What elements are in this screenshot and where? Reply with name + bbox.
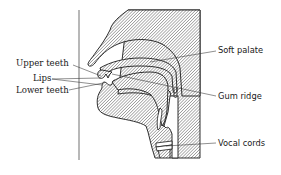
label-vocal-cords: Vocal cords [218,138,265,148]
label-soft-palate: Soft palate [218,45,263,55]
upper-lip-teeth [98,70,112,78]
label-lower-teeth: Lower teeth [16,85,69,95]
leader-lower-teeth [69,83,103,90]
label-upper-teeth: Upper teeth [16,58,69,68]
label-lips: Lips [33,73,51,83]
leader-upper-teeth [73,65,101,76]
label-gum-ridge: Gum ridge [218,91,262,101]
vocal-tract-diagram: Upper teeth Lips Lower teeth Soft palate… [0,0,281,175]
leader-lips-upper [52,78,100,79]
